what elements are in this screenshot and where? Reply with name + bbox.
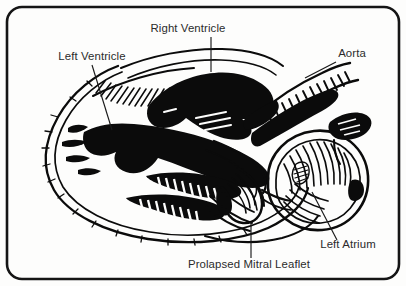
label-aorta: Aorta (338, 47, 366, 59)
heart-anatomy-figure: Right Ventricle Left Ventricle Aorta Lef… (0, 0, 406, 286)
label-left-ventricle: Left Ventricle (58, 50, 125, 62)
figure-page: Right Ventricle Left Ventricle Aorta Lef… (0, 0, 406, 286)
label-prolapsed-mitral-leaflet: Prolapsed Mitral Leaflet (188, 258, 311, 270)
label-right-ventricle: Right Ventricle (151, 22, 226, 34)
label-left-atrium: Left Atrium (320, 238, 376, 250)
